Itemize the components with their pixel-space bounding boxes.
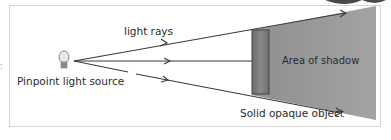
light-source-label: Pinpoint light source	[17, 75, 124, 87]
clipped-decoration	[362, 0, 386, 3]
shadow-area-label: Area of shadow	[282, 55, 359, 66]
edge-mark: :	[0, 62, 3, 74]
opaque-object-label: Solid opaque object	[240, 107, 344, 119]
shadow-diagram	[0, 0, 391, 140]
clipped-decoration	[325, 0, 362, 4]
light-rays-label: light rays	[124, 25, 173, 37]
lower-ray-segment	[74, 61, 128, 72]
light-bulb-icon	[59, 51, 69, 68]
opaque-object	[252, 30, 269, 94]
